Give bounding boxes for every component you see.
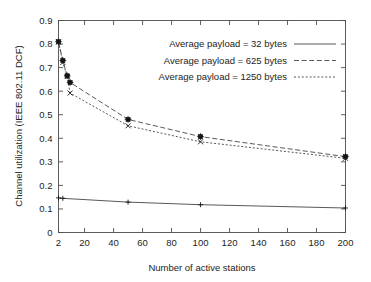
x-tick-label: 120 [222,237,238,248]
x-tick-label: 140 [251,237,267,248]
y-tick-label: 0.2 [39,180,52,191]
x-tick-label: 180 [309,237,325,248]
y-axis-title: Channel utilization (IEEE 802.11 DCF) [13,45,24,206]
y-tick-label: 0.4 [39,133,52,144]
legend-label-0: Average payload = 32 bytes [169,38,287,49]
chart-container: 00.10.20.30.40.50.60.70.80.9 22040608010… [0,0,371,282]
y-tick-label: 0 [47,227,52,238]
x-tick-label: 100 [193,237,209,248]
y-tick-label: 0.3 [39,156,52,167]
x-tick-label: 20 [79,237,90,248]
y-tick-label: 0.9 [39,15,52,26]
legend-label-2: Average payload = 1250 bytes [159,71,288,82]
legend-label-1: Average payload = 625 bytes [164,55,287,66]
x-tick-label: 2 [56,237,61,248]
x-tick-label: 60 [137,237,148,248]
y-tick-label: 0.1 [39,203,52,214]
x-tick-label: 40 [108,237,119,248]
channel-utilization-line-chart: 00.10.20.30.40.50.60.70.80.9 22040608010… [0,0,371,282]
x-tick-label: 160 [280,237,296,248]
y-tick-label: 0.5 [39,109,52,120]
x-tick-label: 200 [338,237,354,248]
y-tick-label: 0.8 [39,38,52,49]
x-axis-title: Number of active stations [148,262,255,273]
y-tick-label: 0.7 [39,62,52,73]
y-tick-label: 0.6 [39,86,52,97]
x-tick-label: 80 [166,237,177,248]
